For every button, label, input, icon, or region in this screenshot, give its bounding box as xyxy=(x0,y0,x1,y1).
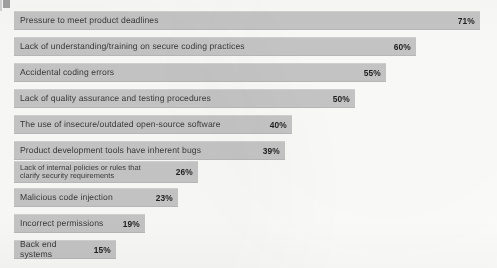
bar-value-label: 60% xyxy=(386,42,411,52)
bar-value-label: 19% xyxy=(115,219,140,229)
bar-category-label: Pressure to meet product deadlines xyxy=(20,16,159,26)
bar-value-label: 71% xyxy=(450,16,475,26)
bar-value-label: 50% xyxy=(325,94,350,104)
bar-row: Malicious code injection 23% xyxy=(14,188,178,207)
bar-row: Lack of quality assurance and testing pr… xyxy=(14,89,355,108)
bar-category-label: Malicious code injection xyxy=(20,193,113,203)
bar-chart: Pressure to meet product deadlines 71% L… xyxy=(0,0,497,268)
bar-row: Product development tools have inherent … xyxy=(14,141,285,160)
bar-row: Back end systems 15% xyxy=(14,240,116,259)
bar-category-label: Incorrect permissions xyxy=(20,219,103,229)
bar-category-label: Lack of understanding/training on secure… xyxy=(20,42,245,52)
bar-row: Lack of internal policies or rules that … xyxy=(14,161,198,183)
bar-category-label: The use of insecure/outdated open-source… xyxy=(20,120,221,130)
bar-value-label: 26% xyxy=(168,167,193,177)
bar-row: Incorrect permissions 19% xyxy=(14,214,145,233)
bar-series: Pressure to meet product deadlines 71% L… xyxy=(0,0,497,268)
bar-value-label: 40% xyxy=(262,120,287,130)
bar-category-label: Back end systems xyxy=(20,240,86,259)
bar-row: Pressure to meet product deadlines 71% xyxy=(14,11,480,30)
bar-category-label: Accidental coding errors xyxy=(20,68,114,78)
bar-category-label: Product development tools have inherent … xyxy=(20,146,201,156)
bar-row: Accidental coding errors 55% xyxy=(14,63,386,82)
bar-value-label: 23% xyxy=(148,193,173,203)
bar-value-label: 39% xyxy=(255,146,280,156)
bar-value-label: 55% xyxy=(356,68,381,78)
bar-category-label: Lack of quality assurance and testing pr… xyxy=(20,94,211,104)
bar-row: The use of insecure/outdated open-source… xyxy=(14,115,292,134)
bar-category-label: Lack of internal policies or rules that … xyxy=(20,164,141,181)
bar-row: Lack of understanding/training on secure… xyxy=(14,37,416,56)
bar-value-label: 15% xyxy=(86,245,111,255)
